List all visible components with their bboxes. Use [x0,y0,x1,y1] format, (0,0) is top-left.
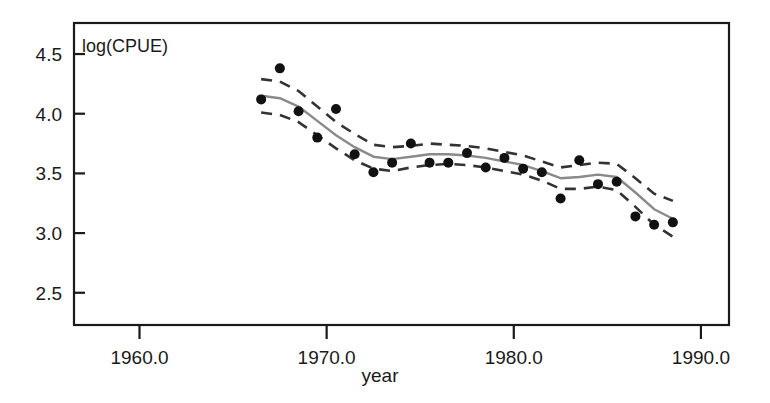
data-point [256,94,266,104]
data-point [612,177,622,187]
x-tick-label: 1990.0 [672,347,730,368]
chart-background [0,0,770,403]
data-point [312,133,322,143]
data-point [425,158,435,168]
data-point [556,193,566,203]
data-point [406,139,416,149]
data-point [481,162,491,172]
data-point [443,158,453,168]
data-point [350,149,360,159]
figure-container: 2.53.03.54.04.5 1960.01970.01980.01990.0… [0,0,770,403]
data-point [593,179,603,189]
y-tick-label: 2.5 [36,283,62,304]
data-point [537,167,547,177]
y-tick-label: 4.0 [36,104,62,125]
data-point [499,153,509,163]
y-tick-label: 4.5 [36,44,62,65]
x-tick-label: 1970.0 [298,347,356,368]
data-point [574,155,584,165]
data-point [294,106,304,116]
x-axis-title: year [362,365,400,386]
data-point [368,167,378,177]
data-point [331,104,341,114]
data-point [275,63,285,73]
data-point [630,211,640,221]
data-point [649,220,659,230]
y-tick-label: 3.5 [36,163,62,184]
panel-annotation-log-cpue: log(CPUE) [82,36,168,56]
x-tick-label: 1960.0 [110,347,168,368]
data-point [518,164,528,174]
data-point [462,148,472,158]
y-tick-label: 3.0 [36,223,62,244]
data-point [668,217,678,227]
data-point [387,158,397,168]
cpue-trend-chart: 2.53.03.54.04.5 1960.01970.01980.01990.0… [0,0,770,403]
x-tick-label: 1980.0 [485,347,543,368]
